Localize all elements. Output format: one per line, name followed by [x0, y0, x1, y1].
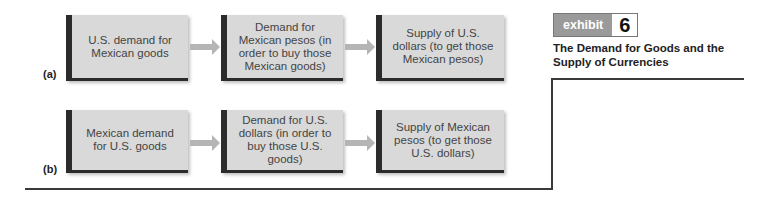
box-demand-mexican-pesos: Demand for Mexican pesos (in order to bu… — [221, 15, 343, 81]
frame-bottom-line — [25, 188, 553, 190]
box-supply-mexican-pesos: Supply of Mexican pesos (to get those U.… — [376, 110, 504, 173]
panel-label-a: (a) — [43, 68, 56, 80]
panel-label-b: (b) — [43, 163, 57, 175]
arrow-right-icon — [343, 37, 377, 57]
exhibit-title: The Demand for Goods and the Supply of C… — [553, 41, 753, 69]
arrow-right-icon — [343, 133, 377, 153]
exhibit-badge: exhibit 6 — [553, 13, 638, 37]
arrow-right-icon — [188, 133, 222, 153]
exhibit-number: 6 — [612, 14, 637, 36]
frame-top-line — [551, 78, 744, 80]
arrow-right-icon — [188, 37, 222, 57]
exhibit-word: exhibit — [554, 14, 612, 36]
box-supply-us-dollars: Supply of U.S. dollars (to get those Mex… — [376, 15, 504, 81]
box-mexican-demand-us-goods: Mexican demand for U.S. goods — [66, 110, 188, 173]
frame-vertical-line — [551, 78, 553, 190]
box-demand-us-dollars: Demand for U.S. dollars (in order to buy… — [221, 110, 343, 173]
box-us-demand-mexican-goods: U.S. demand for Mexican goods — [66, 15, 188, 81]
